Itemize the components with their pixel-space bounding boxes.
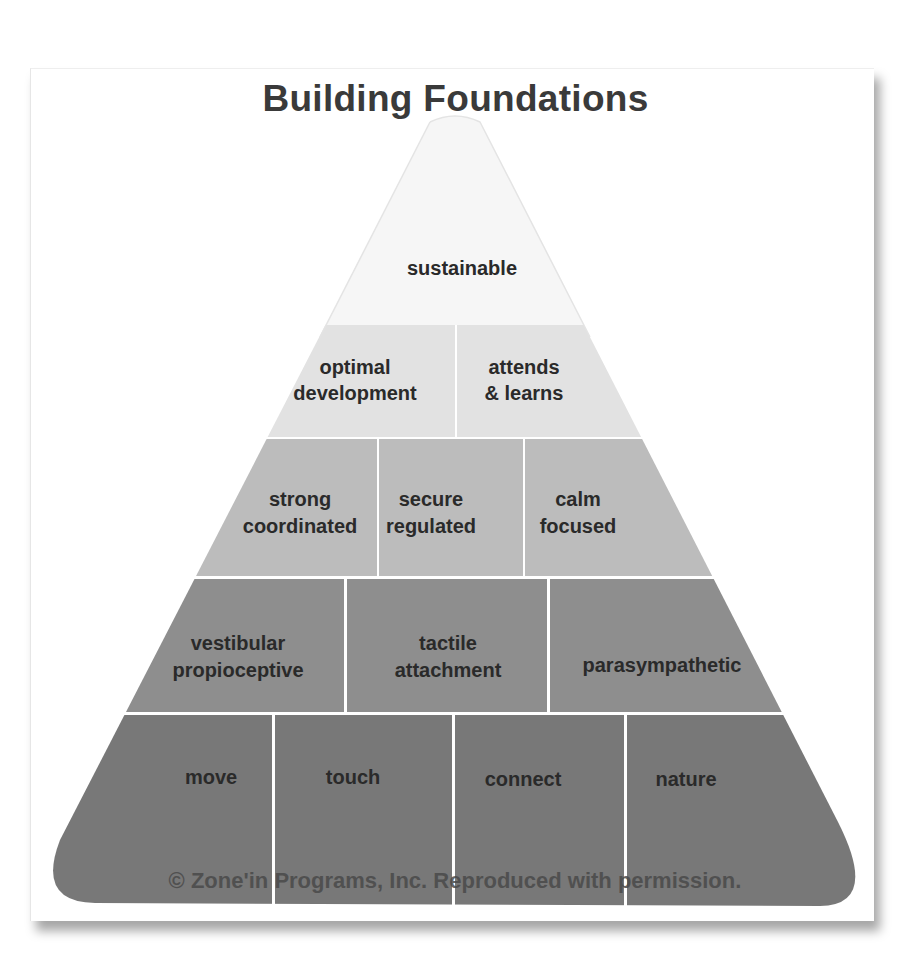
- label-sustainable: sustainable: [407, 257, 517, 279]
- label-calm: calm: [555, 488, 601, 510]
- label-tactile: tactile: [419, 632, 477, 654]
- label-focused: focused: [540, 515, 617, 537]
- label-and-learns: & learns: [485, 382, 564, 404]
- label-attachment: attachment: [395, 659, 502, 681]
- copyright-notice: © Zone'in Programs, Inc. Reproduced with…: [169, 868, 742, 893]
- label-touch: touch: [326, 766, 380, 788]
- label-move: move: [185, 766, 237, 788]
- tier-1-labels: sustainable: [407, 257, 517, 279]
- label-regulated: regulated: [386, 515, 476, 537]
- label-propioceptive: propioceptive: [172, 659, 303, 681]
- pyramid-diagram: sustainable optimal development attends …: [0, 0, 911, 979]
- tier-2-cell-attends-learns: [457, 325, 911, 437]
- label-optimal: optimal: [319, 356, 390, 378]
- label-attends: attends: [488, 356, 559, 378]
- label-connect: connect: [485, 768, 562, 790]
- label-vestibular: vestibular: [191, 632, 286, 654]
- tier-1-cell-sustainable: [0, 100, 911, 325]
- label-parasympathetic: parasympathetic: [583, 654, 742, 676]
- label-coordinated: coordinated: [243, 515, 357, 537]
- tier-2-cell-optimal-development: [0, 325, 455, 437]
- label-development: development: [293, 382, 417, 404]
- tier-4-cell-vestibular-propioceptive: [0, 579, 344, 712]
- label-nature: nature: [655, 768, 716, 790]
- tier-4-cell-parasympathetic: [550, 579, 911, 712]
- label-strong: strong: [269, 488, 331, 510]
- label-secure: secure: [399, 488, 464, 510]
